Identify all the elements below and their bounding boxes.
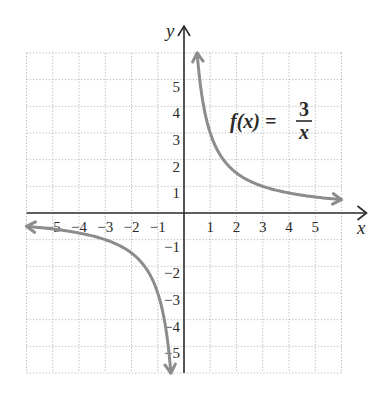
y-tick-label: 2 <box>173 159 181 175</box>
function-graph: −5−4−3−2−112345−5−4−3−2−112345 x y f(x) … <box>0 0 389 396</box>
x-tick-label: 2 <box>233 219 241 235</box>
x-tick-label: −2 <box>124 219 140 235</box>
y-tick-label: −5 <box>164 345 180 361</box>
x-tick-label: −3 <box>97 219 113 235</box>
x-tick-label: 1 <box>207 219 215 235</box>
x-tick-label: 4 <box>285 219 293 235</box>
y-tick-label: −3 <box>164 292 180 308</box>
x-axis-label: x <box>356 217 366 238</box>
curve-branch-negative <box>27 226 171 373</box>
formula-lhs: f(x) = <box>230 110 276 133</box>
tick-labels: −5−4−3−2−112345−5−4−3−2−112345 <box>45 79 319 362</box>
axes <box>27 26 367 373</box>
formula-numerator: 3 <box>299 98 309 120</box>
y-tick-label: 5 <box>173 79 181 95</box>
formula-denominator: x <box>298 121 309 143</box>
y-tick-label: 3 <box>173 132 181 148</box>
x-tick-label: 3 <box>259 219 267 235</box>
y-tick-label: −2 <box>164 265 180 281</box>
x-tick-label: 5 <box>312 219 320 235</box>
y-tick-label: −1 <box>164 239 180 255</box>
y-axis-label: y <box>164 20 175 41</box>
y-tick-label: 4 <box>173 105 181 121</box>
x-tick-label: −1 <box>150 219 166 235</box>
y-tick-label: 1 <box>173 185 181 201</box>
function-annotation: f(x) = 3 x <box>230 98 312 143</box>
